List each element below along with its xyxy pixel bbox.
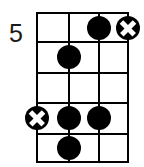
fret-line-3 bbox=[36, 102, 129, 104]
marker-string1-fret4-cross bbox=[25, 106, 49, 130]
fret-line-5 bbox=[36, 161, 129, 163]
fret-line-top bbox=[36, 12, 129, 14]
fret-line-2 bbox=[36, 72, 129, 74]
marker-string4-fret1-cross bbox=[116, 16, 140, 40]
x-icon bbox=[25, 106, 49, 130]
marker-string2-fret5-filled bbox=[57, 136, 81, 160]
fret-line-4 bbox=[36, 133, 129, 135]
marker-string3-fret1-filled bbox=[87, 16, 111, 40]
string-line-1 bbox=[36, 13, 38, 162]
marker-string3-fret4-filled bbox=[87, 106, 111, 130]
marker-string2-fret4-filled bbox=[57, 106, 81, 130]
x-icon bbox=[116, 16, 140, 40]
fretboard-grid bbox=[0, 0, 144, 167]
marker-string2-fret2-filled bbox=[57, 45, 81, 69]
fret-line-1 bbox=[36, 41, 129, 43]
chord-diagram: 5 bbox=[0, 0, 144, 167]
